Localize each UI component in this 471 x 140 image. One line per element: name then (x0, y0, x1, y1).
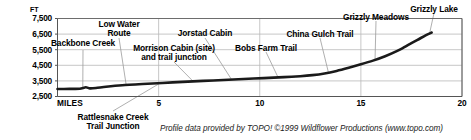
credit-text: Profile data provided by TOPO! ©1999 Wil… (160, 124, 443, 133)
leader-line-grizzly-meadows (375, 21, 376, 60)
annotation-label-grizzly-lake: Grizzly Lake (404, 5, 464, 13)
leader-line-grizzly-lake (430, 13, 434, 33)
annotation-line: Bobs Farm Trail (232, 44, 300, 52)
annotation-label-morrison-cabin: Morrison Cabin (site)and trail junction (120, 44, 228, 63)
annotation-line: Trail Junction (67, 122, 159, 131)
x-tick-label: 5 (147, 99, 171, 107)
annotation-line: Backbone Creek (42, 39, 124, 47)
x-tick-label: 15 (349, 99, 373, 107)
x-tick-label: 10 (248, 99, 272, 107)
annotation-label-grizzly-meadows: Grizzly Meadows (337, 13, 415, 21)
annotation-line: Grizzly Lake (404, 5, 464, 13)
x-tick-label: 20 (450, 99, 471, 107)
leader-line-bobs-farm-trail (266, 52, 278, 77)
y-tick-label: 7,500 (22, 14, 52, 22)
y-tick-label: 6,500 (22, 30, 52, 38)
annotation-line: Jorstad Cabin (172, 29, 238, 37)
x-axis-label-miles: MILES (57, 99, 83, 107)
annotation-label-bobs-farm-trail: Bobs Farm Trail (232, 44, 300, 52)
annotation-label-jorstad-cabin: Jorstad Cabin (172, 29, 238, 37)
annotation-label-low-water-route: Low WaterRoute (86, 20, 152, 39)
annotation-label-rattlesnake-creek-tj: Rattlesnake CreekTrail Junction (67, 113, 159, 132)
annotation-line: Route (86, 29, 152, 38)
annotation-label-china-gulch-trail: China Gulch Trail (283, 30, 357, 38)
y-tick-label: 2,500 (22, 92, 52, 100)
leader-line-morrison-cabin (174, 62, 193, 81)
annotation-line: China Gulch Trail (283, 30, 357, 38)
annotation-line: and trail junction (120, 53, 228, 62)
y-tick-label: 3,500 (22, 77, 52, 85)
y-tick-label: 4,500 (22, 61, 52, 69)
y-axis-unit-label: FT (30, 6, 39, 13)
annotation-label-backbone-creek: Backbone Creek (42, 39, 124, 47)
elevation-profile-chart: 2,5003,5004,5005,5006,5007,500 5101520 F… (0, 0, 471, 140)
annotation-line: Grizzly Meadows (337, 13, 415, 21)
leader-line-china-gulch-trail (320, 38, 329, 73)
